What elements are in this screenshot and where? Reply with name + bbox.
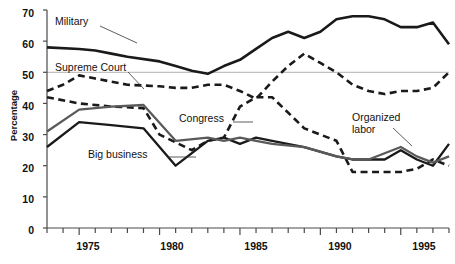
x-tick-label-1975: 1975 — [66, 240, 110, 252]
series-label-congress: Congress — [179, 113, 224, 125]
line-chart-canvas — [0, 0, 455, 264]
y-tick-label-0: 0 — [8, 224, 34, 236]
leader-military — [100, 26, 137, 43]
y-tick-label-50: 50 — [8, 69, 34, 81]
series-label-military: Military — [55, 16, 88, 28]
leader-organized-labor — [393, 128, 412, 146]
chart-figure: Percentage 0 10 20 30 40 50 60 70 1975 1… — [0, 0, 455, 264]
y-tick-label-60: 60 — [8, 38, 34, 50]
y-tick-label-20: 20 — [8, 162, 34, 174]
y-tick-label-10: 10 — [8, 193, 34, 205]
y-tick-label-70: 70 — [8, 7, 34, 19]
x-tick-label-1980: 1980 — [150, 240, 194, 252]
x-tick-label-1995: 1995 — [402, 240, 446, 252]
x-tick-label-1990: 1990 — [318, 240, 362, 252]
series-label-organized-labor-2: labor — [352, 124, 375, 136]
series-label-organized-labor: Organized — [352, 112, 400, 124]
y-tick-label-40: 40 — [8, 100, 34, 112]
series-label-big-business: Big business — [88, 149, 148, 161]
y-axis-title: Percentage — [8, 71, 19, 161]
y-tick-label-30: 30 — [8, 131, 34, 143]
series-line-congress — [47, 97, 449, 172]
x-tick-marks — [47, 228, 449, 235]
x-tick-label-1985: 1985 — [234, 240, 278, 252]
series-label-supreme-court: Supreme Court — [55, 62, 126, 74]
